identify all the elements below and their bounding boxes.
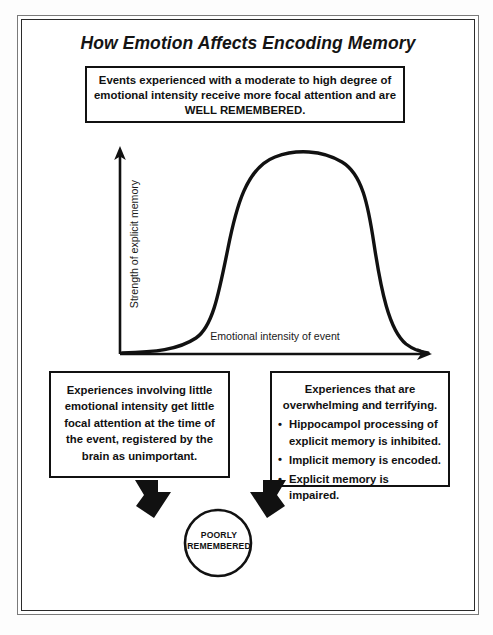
list-item: • Hippocampol processing of explicit mem… xyxy=(278,416,442,448)
left-arrow-icon xyxy=(135,480,171,518)
outcome-circle-label: POORLY REMEMBERED xyxy=(185,530,253,551)
right-arrow-icon xyxy=(250,480,286,518)
outcome-line-1: POORLY xyxy=(185,530,253,541)
chart-y-axis-label: Strength of explicit memory xyxy=(128,159,140,329)
low-intensity-box: Experiences involving little emotional i… xyxy=(49,371,230,478)
chart-x-axis-label: Emotional intensity of event xyxy=(160,330,390,342)
page-title: How Emotion Affects Encoding Memory xyxy=(30,33,466,54)
high-intensity-box: Experiences that are overwhelming and te… xyxy=(270,371,450,487)
list-item-label: Hippocampol processing of explicit memor… xyxy=(289,418,441,446)
memory-strength-curve xyxy=(122,152,428,353)
bullet-icon: • xyxy=(278,451,282,467)
outcome-line-2: REMEMBERED xyxy=(185,541,253,552)
list-item-label: Implicit memory is encoded. xyxy=(289,454,441,466)
poster-canvas: How Emotion Affects Encoding Memory Even… xyxy=(0,0,493,635)
emotion-memory-chart: Strength of explicit memory Emotional in… xyxy=(100,138,445,368)
high-intensity-heading: Experiences that are overwhelming and te… xyxy=(278,381,442,413)
list-item: • Implicit memory is encoded. xyxy=(278,452,442,468)
top-statement-box: Events experienced with a moderate to hi… xyxy=(85,66,405,123)
bullet-icon: • xyxy=(278,416,282,432)
